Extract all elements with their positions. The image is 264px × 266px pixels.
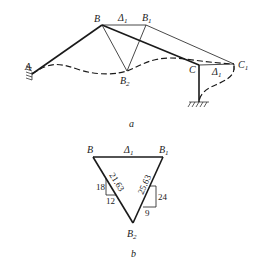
member-ab: [32, 25, 102, 74]
caption-b: b: [131, 248, 136, 259]
figure-a-frame: A B Δ1 B1 B2 C Δ1 C1 a: [24, 12, 248, 129]
label-a: A: [24, 61, 32, 72]
left-run-value: 12: [106, 196, 115, 206]
b-b2-line: [102, 25, 127, 71]
fixed-support-c-icon: [188, 102, 209, 107]
label-delta: Δ1: [123, 144, 133, 157]
right-rise-value: 24: [158, 192, 168, 202]
left-rise-value: 18: [96, 182, 106, 192]
left-hypotenuse-value: 21.63: [107, 171, 126, 194]
b1-c1-line: [146, 25, 234, 64]
label-b2: B2: [120, 75, 130, 88]
caption-a: a: [129, 118, 134, 129]
label-c1: C1: [238, 59, 248, 72]
label-b1: B1: [159, 144, 169, 157]
label-b2: B2: [127, 228, 137, 241]
label-b: B: [87, 144, 93, 155]
b1-b2-line: [127, 25, 146, 71]
label-b1: B1: [142, 12, 152, 25]
label-b: B: [94, 13, 100, 24]
deflected-beam-curve: [32, 58, 234, 74]
label-delta-top: Δ1: [117, 12, 127, 25]
figure-b-triangle: B Δ1 B1 B2 18 12 21.63 24 9 25.63 b: [87, 144, 169, 259]
right-run-value: 9: [145, 208, 150, 218]
label-c: C: [189, 64, 196, 75]
displacement-diagram: A B Δ1 B1 B2 C Δ1 C1 a B Δ1 B1 B2 18 12 …: [0, 0, 264, 266]
label-delta-right: Δ1: [211, 66, 221, 79]
